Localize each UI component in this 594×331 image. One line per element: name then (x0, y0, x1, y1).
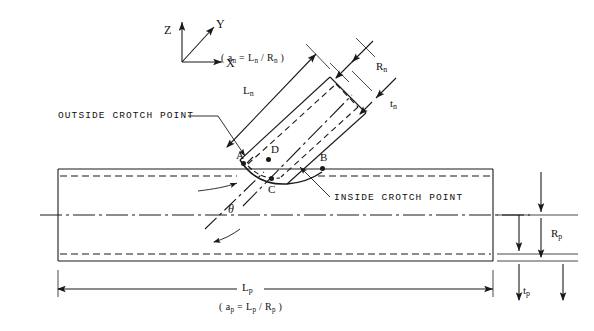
theta-arc-upper (198, 183, 237, 191)
pipe-length-dimension (58, 270, 493, 297)
point-c-marker (269, 176, 274, 181)
pipe-thickness-label: tp (523, 285, 530, 298)
theta-arc-lower (214, 229, 240, 242)
nozzle-radius-dimension (330, 38, 375, 82)
Rn-sub: n (383, 65, 387, 74)
Lp-sub: p (249, 286, 253, 295)
nozzle-outline (240, 77, 366, 184)
point-b-label: B (320, 152, 327, 163)
inside-crotch-point-label: INSIDE CROTCH POINT (334, 193, 463, 203)
z-axis-label: Z (164, 24, 171, 36)
pipe-ratio-part2: = L (234, 301, 252, 312)
callout-leaders (188, 116, 330, 197)
tn-ext-line (352, 71, 372, 91)
nozzle-ratio-formula: ( an = Ln / Rn ) (221, 53, 284, 65)
engineering-diagram: Z Y X ( an = Ln / Rn ) Ln Rn tn OUTSIDE … (0, 0, 594, 331)
pipe-ratio-part3: / R (256, 301, 272, 312)
point-b-marker (320, 166, 325, 171)
pipe-ratio-part4: ) (276, 301, 283, 312)
Rp-sub: p (558, 232, 562, 241)
point-a-marker (241, 161, 246, 166)
nozzle-centreline (243, 95, 352, 206)
pipe-ratio-part1: ( a (219, 301, 230, 312)
Ln-sub: n (250, 89, 254, 98)
tn-sub: n (393, 102, 397, 111)
theta-ref-line (205, 172, 264, 229)
nozzle-length-label: Ln (243, 85, 254, 98)
pipe-radius-label: Rp (551, 228, 562, 241)
point-c-label: C (268, 184, 275, 195)
nozzle-inner-bore (248, 84, 358, 177)
point-d-label: D (271, 144, 279, 155)
angle-theta-label: θ (228, 203, 234, 215)
tn-dim-arrow-upper (376, 78, 396, 98)
point-a-label: A (236, 150, 244, 161)
pipe-ratio-formula: ( ap = Lp / Rp ) (219, 302, 282, 314)
Ln-ext-line-top (306, 44, 330, 69)
Ln-base: L (243, 84, 250, 96)
Ln-dim-line (227, 54, 316, 147)
nozzle-thickness-label: tn (390, 98, 397, 111)
diagram-linework (0, 0, 594, 331)
y-axis-arrow (182, 27, 214, 62)
Rn-ext-line-outer (356, 38, 375, 57)
outside-crotch-point-label: OUTSIDE CROTCH POINT (58, 111, 194, 121)
nozzle-ratio-part4: ) (278, 52, 285, 63)
y-axis-label: Y (216, 18, 225, 30)
nozzle-ratio-part2: = L (236, 52, 254, 63)
nozzle-ratio-part1: ( a (221, 52, 232, 63)
pipe-radius-thickness-dimensions (497, 172, 578, 300)
tn-dim-arrow-lower (360, 102, 372, 114)
point-d-marker (266, 157, 271, 162)
Lp-base: L (242, 281, 249, 293)
pipe-length-label: Lp (242, 282, 253, 295)
nozzle-radius-label: Rn (376, 61, 387, 74)
tp-sub: p (526, 289, 530, 298)
nozzle-bore-end (336, 84, 358, 107)
outer-saddle-curve-right (287, 172, 322, 184)
inside-crotch-leader-d (313, 180, 330, 197)
Rn-dim-arrow-lower (336, 58, 356, 78)
nozzle-end-face (330, 77, 366, 113)
nozzle-ratio-part3: / R (258, 52, 274, 63)
